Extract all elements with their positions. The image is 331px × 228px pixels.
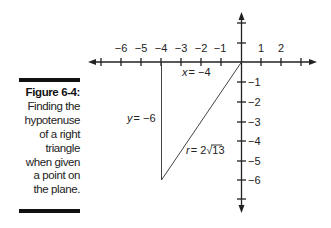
x-tick-label: −5 <box>135 42 148 54</box>
x-axis-right-arrow-icon <box>309 59 317 65</box>
x-tick-label: −6 <box>115 42 128 54</box>
y-tick-label: −4 <box>248 135 261 147</box>
x-tick-label: −3 <box>175 42 188 54</box>
y-equals-label: y= −6 <box>126 112 156 124</box>
y-tick-label: −6 <box>248 174 261 186</box>
y-axis-down-arrow-icon <box>239 205 245 213</box>
x-axis-left-arrow-icon <box>88 59 96 65</box>
x-equals-label: x= −4 <box>181 66 211 78</box>
y-tick-label: −1 <box>248 76 261 88</box>
x-axis <box>92 58 312 66</box>
hypotenuse-line <box>162 62 242 180</box>
x-tick-label: 1 <box>258 42 264 54</box>
y-tick-label: −3 <box>248 116 261 128</box>
coordinate-plane: −6 −5 −4 −3 −2 −1 1 2 −1 −2 −3 −4 −5 −6 … <box>0 0 331 228</box>
y-axis-up-arrow-icon <box>239 12 245 20</box>
x-tick-label: 2 <box>278 42 284 54</box>
x-tick-label: −4 <box>155 42 168 54</box>
y-tick-label: −5 <box>248 155 261 167</box>
r-equals-label: r= 2√13 <box>186 144 225 156</box>
y-axis <box>237 16 246 208</box>
y-tick-label: −2 <box>248 96 261 108</box>
x-tick-label: −2 <box>195 42 208 54</box>
x-tick-label: −1 <box>214 42 227 54</box>
